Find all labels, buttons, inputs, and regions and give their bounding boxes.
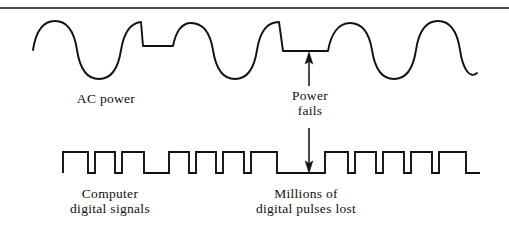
label-millions-of-digital-pulses-lost: Millions of digital pulses lost [218,186,394,216]
label-millions-of-digital-pulses-lost-line1: Millions of [218,186,394,201]
label-ac-power: AC power [36,91,176,106]
digital-pulse-train [63,152,480,173]
label-power-fails-line1: Power [258,88,362,103]
label-ac-power-line1: AC power [36,91,176,106]
label-power-fails-line2: fails [258,103,362,118]
ac-power-sine-wave [33,21,477,79]
label-computer-digital-signals-line1: Computer [30,186,190,201]
label-millions-of-digital-pulses-lost-line2: digital pulses lost [218,201,394,216]
label-power-fails: Power fails [258,88,362,118]
label-computer-digital-signals: Computer digital signals [30,186,190,216]
power-failure-diagram: AC power Power fails Computer digital si… [0,0,509,225]
label-computer-digital-signals-line2: digital signals [30,201,190,216]
